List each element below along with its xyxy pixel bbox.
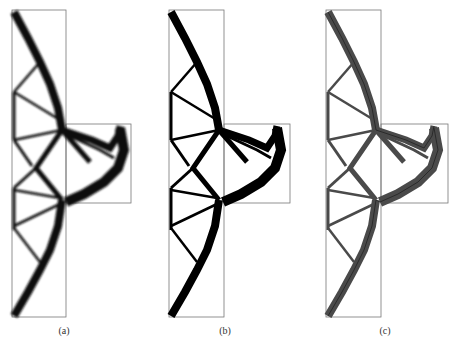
- caption-b: (b): [210, 325, 240, 336]
- caption-c: (c): [370, 325, 400, 336]
- topology-structure: [328, 12, 438, 316]
- topology-structure: [14, 12, 124, 316]
- panel-b: [169, 10, 290, 317]
- panel-c: [326, 10, 448, 317]
- panel-a: [12, 10, 131, 317]
- figure-canvas: [0, 0, 453, 350]
- topology-structure: [171, 12, 281, 316]
- caption-a: (a): [49, 325, 79, 336]
